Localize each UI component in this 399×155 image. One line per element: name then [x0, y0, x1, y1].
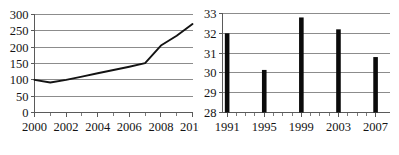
bar-chart-bars	[225, 17, 378, 112]
y-tick-label: 30	[204, 66, 217, 80]
line-chart-x-tick-labels: 200020022004200620082010	[22, 120, 199, 134]
x-tick-label: 2010	[180, 120, 199, 134]
bar	[299, 17, 304, 112]
x-tick-label: 2004	[85, 120, 111, 134]
y-tick-label: 250	[10, 24, 29, 38]
x-tick-label: 1999	[289, 120, 314, 134]
figure-root: 050100150200250300 200020022004200620082…	[0, 0, 399, 155]
bar	[225, 33, 230, 112]
y-tick-label: 29	[204, 86, 217, 100]
y-tick-label: 28	[204, 106, 217, 120]
x-tick-label: 1995	[252, 120, 277, 134]
x-tick-label: 2003	[326, 120, 351, 134]
bar-chart-gridlines	[223, 14, 390, 93]
y-tick-label: 31	[204, 47, 217, 61]
x-tick-label: 2008	[148, 120, 173, 134]
y-tick-label: 50	[16, 90, 29, 104]
bar-chart-y-tick-labels: 282930313233	[204, 7, 217, 120]
y-tick-label: 33	[204, 7, 217, 21]
line-chart-y-tick-labels: 050100150200250300	[10, 8, 29, 120]
bar	[262, 70, 267, 113]
line-chart-svg: 050100150200250300 200020022004200620082…	[0, 0, 199, 155]
bar-chart-x-tickmarks	[227, 113, 375, 118]
y-tick-label: 100	[10, 73, 29, 87]
y-tick-label: 32	[204, 27, 217, 41]
bar-chart-panel: 282930313233 19911995199920032007	[199, 0, 399, 155]
bar	[336, 29, 341, 112]
x-tick-label: 2002	[54, 120, 79, 134]
x-tick-label: 2007	[363, 120, 388, 134]
line-chart-panel: 050100150200250300 200020022004200620082…	[0, 0, 199, 155]
x-tick-label: 1991	[215, 120, 240, 134]
bar	[373, 57, 378, 112]
bar-chart-svg: 282930313233 19911995199920032007	[199, 0, 399, 155]
line-chart-series-path	[35, 24, 193, 82]
x-tick-label: 2006	[117, 120, 142, 134]
y-tick-label: 150	[10, 57, 29, 71]
line-chart-gridlines	[35, 15, 193, 97]
y-tick-label: 0	[22, 106, 28, 120]
y-tick-label: 200	[10, 41, 29, 55]
bar-chart-x-tick-labels: 19911995199920032007	[215, 120, 388, 134]
y-tick-label: 300	[10, 8, 29, 22]
x-tick-label: 2000	[22, 120, 47, 134]
